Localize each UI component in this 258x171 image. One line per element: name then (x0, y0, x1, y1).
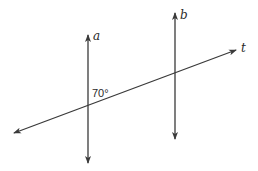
parallel-lines-diagram: a b t 70° (0, 0, 258, 171)
label-t: t (241, 41, 246, 55)
label-a: a (93, 29, 100, 43)
transversal-t (14, 50, 236, 133)
label-b: b (180, 8, 188, 22)
angle-label-70: 70° (92, 87, 109, 99)
